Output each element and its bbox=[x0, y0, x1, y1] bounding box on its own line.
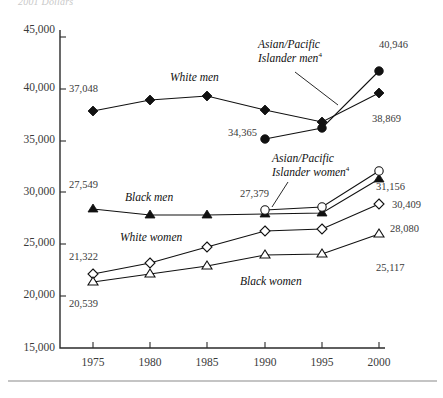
data-label-white-men-1975: 37,048 bbox=[69, 83, 98, 94]
x-tick-label-1975: 1975 bbox=[68, 356, 118, 368]
x-tick-label-1995: 1995 bbox=[297, 356, 347, 368]
footnote-marker-api-women: 4 bbox=[346, 165, 350, 173]
x-tick-label-1985: 1985 bbox=[182, 356, 232, 368]
chart-plot-area bbox=[0, 0, 443, 398]
series-label-api-women: Asian/Pacific Islander women4 bbox=[272, 152, 349, 179]
data-label-black-women-2000: 25,117 bbox=[376, 262, 405, 273]
data-label-black-women-1975: 20,539 bbox=[69, 298, 98, 309]
series-label-api-men: Asian/Pacific Islander men4 bbox=[258, 38, 322, 65]
x-tick-label-1980: 1980 bbox=[125, 356, 175, 368]
y-tick-label-35000: 35,000 bbox=[0, 133, 55, 145]
data-label-white-men-2000: 38,869 bbox=[372, 113, 401, 124]
data-label-api-women-1990: 27,379 bbox=[240, 188, 269, 199]
y-tick-label-20000: 20,000 bbox=[0, 288, 55, 300]
series-label-api-men-line1: Asian/Pacific bbox=[258, 38, 320, 50]
series-label-black-men: Black men bbox=[125, 191, 173, 204]
series-line-white-men bbox=[93, 93, 379, 122]
markers-api-men bbox=[261, 67, 384, 144]
data-label-black-men-1975: 27,549 bbox=[69, 179, 98, 190]
chart-container: 2001 Dollars bbox=[0, 0, 443, 398]
leader-line-api-women bbox=[272, 182, 288, 207]
y-tick-label-45000: 45,000 bbox=[0, 23, 55, 35]
footnote-marker-api-men: 4 bbox=[318, 51, 322, 59]
series-label-api-women-line1: Asian/Pacific bbox=[272, 152, 334, 164]
y-tick-label-25000: 25,000 bbox=[0, 236, 55, 248]
x-tick-label-2000: 2000 bbox=[354, 356, 404, 368]
data-label-api-men-1990: 34,365 bbox=[228, 127, 257, 138]
series-label-white-women: White women bbox=[120, 231, 182, 244]
y-axis-ticks bbox=[60, 37, 66, 296]
data-label-black-men-2000: 30,409 bbox=[392, 199, 421, 210]
y-tick-label-15000: 15,000 bbox=[0, 341, 55, 353]
axis-frame bbox=[60, 30, 385, 348]
x-tick-label-1990: 1990 bbox=[240, 356, 290, 368]
data-label-white-women-1975: 21,322 bbox=[69, 251, 98, 262]
y-tick-label-30000: 30,000 bbox=[0, 185, 55, 197]
series-label-white-men: White men bbox=[170, 71, 219, 84]
data-label-api-women-2000: 31,156 bbox=[376, 181, 405, 192]
y-tick-label-40000: 40,000 bbox=[0, 81, 55, 93]
series-label-black-women: Black women bbox=[240, 275, 302, 288]
x-axis-ticks bbox=[93, 342, 379, 348]
leader-line-api-men bbox=[295, 72, 338, 105]
data-label-api-men-2000: 40,946 bbox=[379, 39, 408, 50]
series-label-api-women-line2: Islander women bbox=[272, 166, 346, 178]
markers-white-men bbox=[88, 88, 384, 127]
data-label-white-women-2000: 28,080 bbox=[390, 223, 419, 234]
series-label-api-men-line2: Islander men bbox=[258, 52, 318, 64]
